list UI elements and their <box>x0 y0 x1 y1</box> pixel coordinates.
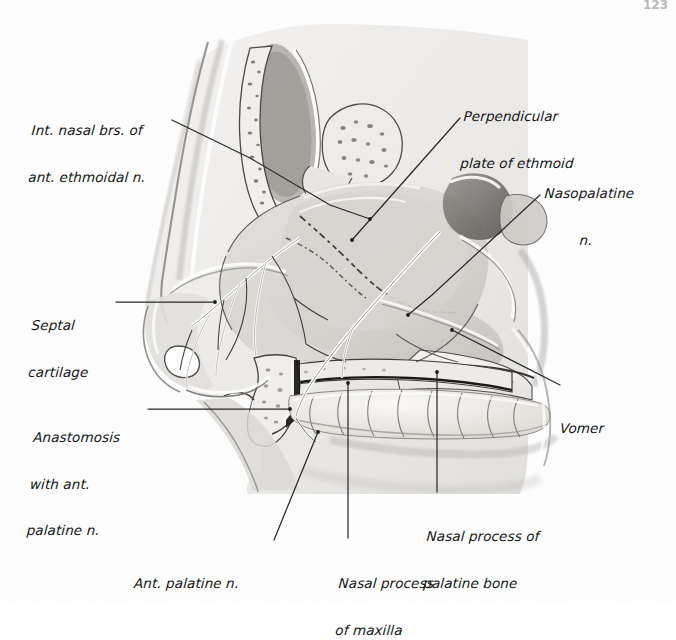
label-anterior-palatine-nerve: Ant. palatine n. <box>131 545 242 623</box>
label-anastomosis-with-anterior-palatine-nerve: Anastomosis with ant. palatine n. <box>24 399 123 570</box>
label-vomer: Vomer <box>557 390 607 468</box>
label-nasopalatine-nerve: Nasopalatine n. <box>539 155 637 279</box>
label-nasal-process-of-maxilla: Nasal process of maxilla <box>333 545 437 640</box>
label-nasal-process-of-palatine-bone: Nasal process of palatine bone <box>421 498 542 622</box>
label-septal-cartilage: Septal cartilage <box>26 287 95 411</box>
label-int-nasal-branches-anterior-ethmoidal-nerve: Int. nasal brs. of ant. ethmoidal n. <box>26 92 152 216</box>
